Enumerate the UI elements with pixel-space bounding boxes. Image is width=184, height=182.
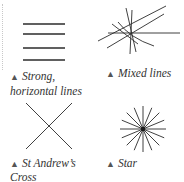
star-figure [120, 106, 166, 152]
st-andrews-cross-figure [26, 103, 72, 149]
strong-horizontal-lines-figure [23, 24, 65, 60]
caption-text: Cross [10, 171, 36, 182]
caption-st-andrews-cross: ▲St Andrew’s [10, 156, 76, 171]
caption-text: Mixed lines [118, 67, 171, 79]
caption-strong-horizontal-line2: horizontal lines [10, 84, 82, 98]
caption-st-andrews-cross-line2: Cross [10, 170, 36, 182]
caption-text: Strong, [22, 70, 55, 82]
triangle-marker-icon: ▲ [10, 159, 19, 169]
caption-mixed-lines: ▲Mixed lines [106, 66, 171, 81]
caption-text: Star [118, 157, 137, 169]
caption-text: St Andrew’s [22, 157, 76, 169]
triangle-marker-icon: ▲ [10, 72, 19, 82]
caption-star: ▲Star [106, 156, 137, 171]
caption-strong-horizontal: ▲Strong, [10, 69, 55, 84]
triangle-marker-icon: ▲ [106, 159, 115, 169]
mixed-lines-figure [98, 6, 180, 54]
caption-text: horizontal lines [10, 85, 82, 97]
triangle-marker-icon: ▲ [106, 69, 115, 79]
